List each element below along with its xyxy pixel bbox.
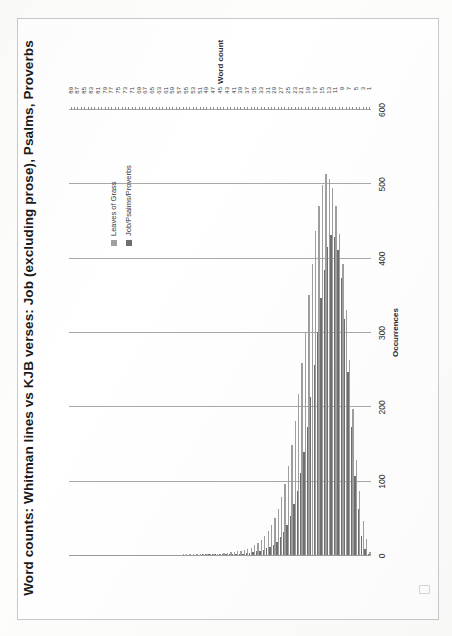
bar-job-psalms-proverbs-34	[256, 551, 257, 555]
x-axis-tick	[210, 107, 211, 110]
x-axis-tick	[132, 107, 133, 110]
x-axis-tick-label: 81	[95, 87, 101, 105]
x-axis-tick	[268, 107, 269, 110]
bar-job-psalms-proverbs-8	[344, 319, 345, 555]
bar-job-psalms-proverbs-46	[215, 554, 216, 555]
x-axis-tick	[234, 107, 235, 110]
x-axis-tick	[223, 107, 224, 110]
bar-job-psalms-proverbs-37	[246, 553, 247, 555]
rotated-chart-container: Word counts: Whitman lines vs KJB verses…	[17, 18, 437, 618]
x-axis-tick	[142, 107, 143, 110]
x-axis-tick	[193, 107, 194, 110]
x-axis-tick-label: 19	[305, 87, 311, 105]
bar-job-psalms-proverbs-24	[290, 516, 291, 555]
bar-job-psalms-proverbs-16	[317, 332, 318, 555]
x-axis-tick	[308, 107, 309, 110]
x-axis-tick	[145, 107, 146, 110]
x-axis-tick	[118, 107, 119, 110]
x-axis-tick	[115, 107, 116, 110]
bar-leaves-of-grass-2	[366, 539, 367, 555]
x-axis-tick-label: 13	[326, 87, 332, 105]
x-axis-tick	[156, 107, 157, 110]
x-axis-tick	[172, 107, 173, 110]
bar-job-psalms-proverbs-44	[222, 554, 223, 555]
legend-label: Job/Psalms/Proverbs	[124, 165, 133, 236]
bar-job-psalms-proverbs-6	[351, 427, 352, 555]
bar-job-psalms-proverbs-17	[314, 365, 315, 555]
x-axis-tick	[240, 107, 241, 110]
bar-job-psalms-proverbs-12	[330, 235, 331, 555]
x-axis-tick	[196, 107, 197, 110]
bar-job-psalms-proverbs-25	[286, 525, 287, 555]
x-axis-tick	[186, 107, 187, 110]
bar-job-psalms-proverbs-10	[337, 250, 338, 555]
bar-job-psalms-proverbs-26	[283, 532, 284, 555]
x-axis-tick-label: 61	[163, 87, 169, 105]
x-axis-tick	[111, 107, 112, 110]
x-axis-tick-label: 15	[319, 87, 325, 105]
bar-job-psalms-proverbs-48	[208, 554, 209, 555]
x-axis-tick	[183, 107, 184, 110]
bar-job-psalms-proverbs-42	[229, 554, 230, 555]
x-axis-tick	[71, 107, 72, 110]
bar-job-psalms-proverbs-39	[239, 554, 240, 555]
x-axis-tick	[281, 107, 282, 110]
x-axis-tick	[105, 107, 106, 110]
x-axis-tick	[251, 107, 252, 110]
chart-legend: Leaves of Grass Job/Psalms/Proverbs	[109, 165, 139, 246]
x-axis-tick-label: 75	[115, 87, 121, 105]
bar-job-psalms-proverbs-30	[269, 547, 270, 555]
scan-artifact	[419, 585, 430, 594]
x-axis-tick	[339, 107, 340, 110]
bar-job-psalms-proverbs-36	[249, 553, 250, 555]
x-axis-tick	[318, 107, 319, 110]
chart-title: Word counts: Whitman lines vs KJB verses…	[21, 18, 38, 618]
bar-leaves-of-grass-55	[186, 554, 187, 555]
x-axis-tick	[81, 107, 82, 110]
x-axis-tick	[278, 107, 279, 110]
bar-job-psalms-proverbs-31	[266, 548, 267, 555]
x-axis-tick-label: 11	[332, 87, 338, 105]
bar-job-psalms-proverbs-18	[310, 397, 311, 555]
bar-job-psalms-proverbs-20	[303, 452, 304, 555]
x-axis-tick	[369, 107, 370, 110]
bar-job-psalms-proverbs-29	[273, 545, 274, 555]
x-axis-tick-label: 25	[285, 87, 291, 105]
x-axis-tick	[237, 107, 238, 110]
x-axis-tick-label: 31	[265, 87, 271, 105]
bar-leaves-of-grass-54	[189, 554, 190, 555]
x-axis-tick	[139, 107, 140, 110]
x-axis-tick-label: 69	[136, 87, 142, 105]
bar-job-psalms-proverbs-5	[354, 476, 355, 555]
x-axis-tick	[213, 107, 214, 110]
x-axis-tick	[203, 107, 204, 110]
bar-job-psalms-proverbs-15	[320, 298, 321, 555]
x-axis-tick	[312, 107, 313, 110]
x-axis-tick	[356, 107, 357, 110]
legend-swatch-icon	[126, 240, 132, 246]
x-axis-tick-label: 51	[197, 87, 203, 105]
x-axis-tick	[189, 107, 190, 110]
x-axis-tick-label: 63	[156, 87, 162, 105]
x-axis-tick	[284, 107, 285, 110]
bar-job-psalms-proverbs-35	[252, 552, 253, 555]
bar-job-psalms-proverbs-7	[347, 372, 348, 555]
bar-job-psalms-proverbs-28	[276, 542, 277, 555]
x-axis-tick-label: 23	[292, 87, 298, 105]
bar-job-psalms-proverbs-32	[263, 550, 264, 555]
x-axis-tick	[291, 107, 292, 110]
x-axis-tick	[325, 107, 326, 110]
legend-label: Leaves of Grass	[109, 181, 118, 236]
bar-job-psalms-proverbs-21	[300, 473, 301, 555]
bar-job-psalms-proverbs-33	[259, 551, 260, 555]
bar-job-psalms-proverbs-1	[368, 554, 369, 555]
x-axis-tick-label: 89	[68, 87, 74, 105]
x-axis-tick-label: 73	[122, 87, 128, 105]
scanned-page: Word counts: Whitman lines vs KJB verses…	[0, 0, 452, 636]
x-axis-tick	[135, 107, 136, 110]
x-axis-tick	[122, 107, 123, 110]
x-axis-tick-label: 59	[169, 87, 175, 105]
x-axis-tick	[315, 107, 316, 110]
x-axis-tick-label: 39	[237, 87, 243, 105]
x-axis-tick-label: 49	[203, 87, 209, 105]
